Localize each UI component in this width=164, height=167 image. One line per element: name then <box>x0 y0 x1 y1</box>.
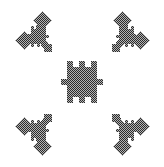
fractal-canvas <box>0 0 164 167</box>
fractal-image <box>0 0 164 167</box>
